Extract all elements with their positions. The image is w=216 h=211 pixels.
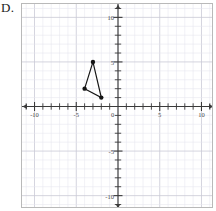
y-tick-label: 10 [102, 14, 114, 21]
choice-label: D. [1, 1, 14, 15]
x-tick-label: -10 [30, 111, 39, 118]
y-tick-label: -5 [102, 148, 114, 155]
x-tick-label: 10 [198, 111, 205, 118]
plot-area: -10-5510105-5-100 [21, 3, 213, 208]
origin-label: 0 [111, 111, 114, 118]
plotted-triangle [22, 4, 213, 208]
y-tick-label: -10 [102, 192, 114, 199]
x-tick-label: -5 [74, 111, 79, 118]
coordinate-plane-figure: D. -10-5510105-5-100 [0, 0, 216, 211]
x-tick-label: 5 [158, 111, 161, 118]
y-tick-label: 5 [102, 58, 114, 65]
